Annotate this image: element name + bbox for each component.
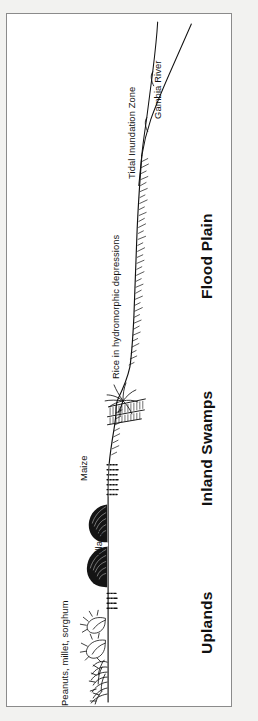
label-rice-in-hydromorphic-depressions: Rice in hydromorphic depressions bbox=[111, 235, 120, 379]
zone-label-flood-plain: Flood Plain bbox=[199, 213, 215, 299]
label-village: Village bbox=[94, 530, 103, 559]
crop-rows-icon bbox=[107, 465, 118, 495]
figure-frame: Gambia River Tidal Inundation Zone Rice … bbox=[6, 13, 232, 707]
shrub-icon bbox=[80, 610, 105, 660]
shrub-icon bbox=[89, 658, 107, 704]
label-maize: Maize bbox=[79, 455, 88, 481]
label-tidal-inundation-zone: Tidal Inundation Zone bbox=[127, 87, 136, 179]
river-bank-line-icon bbox=[139, 22, 192, 186]
label-peanuts-millet-sorghum: Peanuts, millet, sorghum bbox=[60, 600, 69, 706]
label-gambia-river: Gambia River bbox=[153, 60, 162, 119]
crop-rows-icon bbox=[107, 399, 146, 425]
zone-label-inland-swamps: Inland Swamps bbox=[199, 391, 215, 506]
zone-label-uplands: Uplands bbox=[199, 591, 215, 654]
